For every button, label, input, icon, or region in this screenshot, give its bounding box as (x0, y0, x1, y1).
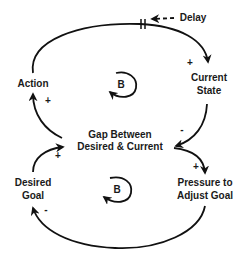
node-action: Action (17, 78, 48, 89)
polarity-current-state-to-gap: - (180, 124, 183, 135)
svg-text:State: State (197, 85, 222, 96)
node-pressure-to-adjust-goal: Pressure to Adjust Goal (177, 177, 233, 201)
delay-label: Delay (180, 12, 207, 23)
svg-text:Goal: Goal (22, 190, 44, 201)
svg-text:Desired: Desired (15, 177, 52, 188)
svg-text:Current: Current (191, 72, 228, 83)
balancing-loop-upper-icon: B (110, 72, 136, 97)
balancing-loop-lower-icon: B (104, 177, 131, 202)
svg-text:Pressure to: Pressure to (177, 177, 232, 188)
svg-text:B: B (117, 79, 124, 90)
polarity-desired-goal-to-gap: + (55, 150, 61, 161)
svg-text:Gap Between: Gap Between (88, 129, 151, 140)
polarity-gap-to-pressure: + (193, 161, 199, 172)
delay-pointer-arrow (152, 18, 174, 19)
edge-pressure-to-desired-goal (33, 206, 205, 248)
svg-text:Desired & Current: Desired & Current (77, 141, 163, 152)
edge-action-to-current-state (33, 24, 208, 73)
node-desired-goal: Desired Goal (15, 177, 52, 201)
polarity-pressure-to-desired-goal: - (44, 204, 47, 215)
edge-gap-to-pressure (174, 148, 205, 173)
polarity-gap-to-action: + (45, 95, 51, 106)
node-gap-between-desired-and-current: Gap Between Desired & Current (77, 129, 163, 152)
svg-text:Adjust Goal: Adjust Goal (177, 190, 233, 201)
node-current-state: Current State (191, 72, 228, 96)
svg-text:B: B (113, 184, 120, 195)
causal-loop-diagram: Delay + Action Current State B - + Gap B… (0, 0, 246, 261)
polarity-action-to-current-state: + (187, 57, 193, 68)
